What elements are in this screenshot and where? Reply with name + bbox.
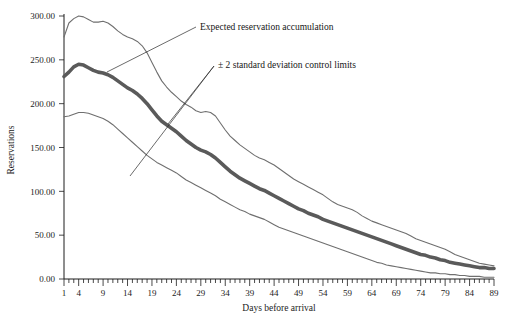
x-axis-tick-labels: 14914192429343944495459646974798489 bbox=[62, 288, 499, 298]
x-axis-minor-ticks bbox=[69, 279, 489, 283]
y-tick-label: 150.00 bbox=[30, 143, 55, 153]
y-tick-label: 50.00 bbox=[35, 230, 56, 240]
annotation-leader-line bbox=[130, 66, 214, 176]
x-tick-label: 89 bbox=[490, 288, 500, 298]
series-line: Upper control limit (+2 sd) bbox=[64, 16, 494, 266]
series-line: Lower control limit (-2 sd) bbox=[64, 112, 494, 277]
x-tick-label: 74 bbox=[416, 288, 426, 298]
x-axis: 14914192429343944495459646974798489 Days… bbox=[62, 279, 499, 313]
x-tick-label: 54 bbox=[318, 288, 328, 298]
reservation-accumulation-chart: 0.0050.00100.00150.00200.00250.00300.00 … bbox=[0, 0, 505, 321]
x-tick-label: 19 bbox=[147, 288, 157, 298]
y-axis: 0.0050.00100.00150.00200.00250.00300.00 … bbox=[6, 11, 64, 284]
y-tick-label: 0.00 bbox=[39, 274, 55, 284]
control-limits-annotation: ± 2 standard deviation control limits bbox=[218, 60, 356, 70]
x-tick-label: 14 bbox=[123, 288, 133, 298]
x-tick-label: 44 bbox=[270, 288, 280, 298]
x-tick-label: 59 bbox=[343, 288, 353, 298]
annotation-leader-line bbox=[107, 27, 196, 72]
y-tick-label: 300.00 bbox=[30, 11, 55, 21]
y-tick-label: 250.00 bbox=[30, 55, 55, 65]
y-axis-ticks bbox=[59, 16, 64, 279]
y-tick-label: 200.00 bbox=[30, 99, 55, 109]
chart-canvas: 0.0050.00100.00150.00200.00250.00300.00 … bbox=[0, 0, 505, 321]
x-tick-label: 34 bbox=[221, 288, 231, 298]
y-axis-title: Reservations bbox=[6, 125, 16, 174]
x-tick-label: 39 bbox=[245, 288, 255, 298]
x-tick-label: 64 bbox=[367, 288, 377, 298]
y-tick-label: 100.00 bbox=[30, 187, 55, 197]
x-tick-label: 69 bbox=[392, 288, 402, 298]
series-line: Expected reservation accumulation bbox=[64, 64, 494, 268]
x-tick-label: 29 bbox=[196, 288, 206, 298]
x-axis-title: Days before arrival bbox=[242, 303, 316, 313]
x-tick-label: 1 bbox=[62, 288, 67, 298]
x-tick-label: 24 bbox=[172, 288, 182, 298]
x-tick-label: 49 bbox=[294, 288, 304, 298]
x-tick-label: 4 bbox=[76, 288, 81, 298]
y-axis-tick-labels: 0.0050.00100.00150.00200.00250.00300.00 bbox=[30, 11, 55, 284]
expected-annotation: Expected reservation accumulation bbox=[200, 22, 334, 32]
x-tick-label: 84 bbox=[465, 288, 475, 298]
x-tick-label: 79 bbox=[441, 288, 451, 298]
chart-series-group: Upper control limit (+2 sd)Expected rese… bbox=[64, 16, 494, 277]
x-tick-label: 9 bbox=[101, 288, 106, 298]
